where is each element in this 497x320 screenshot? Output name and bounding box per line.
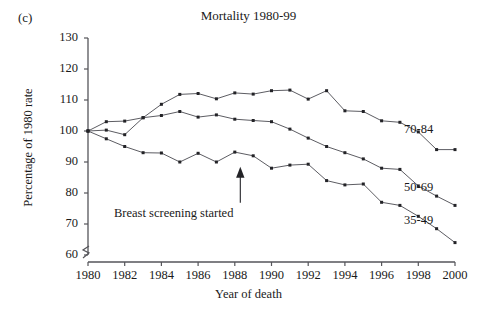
data-point-50-69 [362, 157, 365, 160]
data-point-50-69 [435, 195, 438, 198]
series-label-70-84: 70-84 [404, 122, 433, 137]
data-point-35-49 [105, 137, 108, 140]
data-point-70-84 [123, 133, 126, 136]
data-point-50-69 [197, 116, 200, 119]
data-point-35-49 [233, 151, 236, 154]
data-point-70-84 [435, 148, 438, 151]
data-point-50-69 [398, 168, 401, 171]
data-point-50-69 [325, 145, 328, 148]
y-tick-label: 90 [44, 154, 78, 169]
data-point-50-69 [307, 137, 310, 140]
data-point-70-84 [343, 109, 346, 112]
mortality-chart-figure: (c) Mortality 1980-99 Percentage of 1980… [0, 0, 497, 320]
data-point-50-69 [105, 120, 108, 123]
series-line-50-69 [88, 112, 455, 206]
data-point-50-69 [454, 204, 457, 207]
data-point-70-84 [288, 89, 291, 92]
data-point-35-49 [288, 164, 291, 167]
annotation-arrow-head [236, 167, 244, 178]
data-point-50-69 [270, 120, 273, 123]
annotation-arrow [236, 167, 244, 203]
breast-screening-annotation-label: Breast screening started [114, 206, 233, 221]
data-point-70-84 [252, 93, 255, 96]
data-point-35-49 [160, 152, 163, 155]
data-point-35-49 [142, 151, 145, 154]
data-point-35-49 [87, 130, 90, 133]
data-point-50-69 [380, 167, 383, 170]
data-point-50-69 [123, 120, 126, 123]
series-label-50-69: 50-69 [404, 180, 433, 195]
y-tick-label: 110 [44, 92, 78, 107]
y-tick-label: 80 [44, 185, 78, 200]
data-point-50-69 [215, 113, 218, 116]
data-point-70-84 [380, 119, 383, 122]
data-point-50-69 [160, 114, 163, 117]
series-line-35-49 [88, 131, 455, 243]
data-point-70-84 [454, 148, 457, 151]
data-point-70-84 [197, 92, 200, 95]
data-point-35-49 [325, 179, 328, 182]
data-point-70-84 [105, 129, 108, 132]
data-point-70-84 [398, 121, 401, 124]
data-point-35-49 [215, 161, 218, 164]
data-point-35-49 [454, 241, 457, 244]
data-point-35-49 [252, 154, 255, 157]
y-tick-label: 60 [44, 247, 78, 262]
x-tick-label: 2000 [433, 268, 477, 283]
data-point-70-84 [178, 93, 181, 96]
data-point-50-69 [233, 118, 236, 121]
y-tick-label: 70 [44, 216, 78, 231]
data-point-35-49 [197, 152, 200, 155]
data-point-70-84 [233, 91, 236, 94]
data-point-35-49 [435, 227, 438, 230]
series-line-70-84 [88, 90, 455, 150]
data-point-70-84 [215, 97, 218, 100]
data-point-35-49 [123, 145, 126, 148]
axes [83, 38, 455, 262]
data-point-50-69 [343, 151, 346, 154]
data-point-50-69 [252, 119, 255, 122]
y-tick-label: 120 [44, 61, 78, 76]
data-point-35-49 [398, 204, 401, 207]
data-point-35-49 [380, 201, 383, 204]
series-label-35-49: 35-49 [404, 213, 433, 228]
data-point-70-84 [362, 110, 365, 113]
data-point-50-69 [142, 116, 145, 119]
data-point-70-84 [160, 103, 163, 106]
data-point-35-49 [307, 163, 310, 166]
data-point-35-49 [362, 183, 365, 186]
data-point-70-84 [307, 98, 310, 101]
data-point-50-69 [178, 110, 181, 113]
data-point-70-84 [270, 89, 273, 92]
data-point-35-49 [270, 167, 273, 170]
y-tick-label: 130 [44, 30, 78, 45]
data-point-70-84 [325, 89, 328, 92]
data-point-35-49 [178, 161, 181, 164]
data-point-35-49 [343, 183, 346, 186]
data-point-50-69 [288, 128, 291, 131]
y-tick-label: 100 [44, 123, 78, 138]
